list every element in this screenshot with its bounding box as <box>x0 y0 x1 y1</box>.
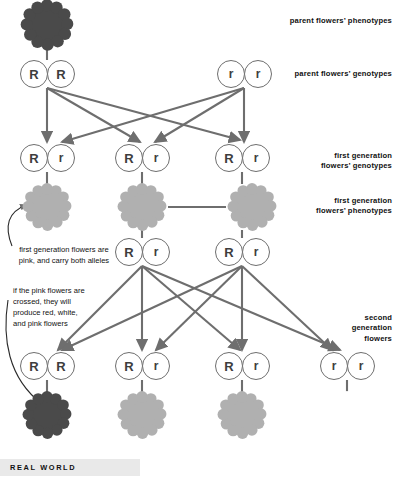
firstgen-genotype-1-left: R <box>20 144 48 172</box>
secondgen-genotype-Rr-1-right: r <box>142 352 170 380</box>
secondgen-flower-white <box>321 389 373 441</box>
note-first-generation-line1: first generation flowers are <box>2 244 126 255</box>
secondgen-genotype-RR-left: R <box>20 352 48 380</box>
firstgen-flower-pink-1 <box>21 181 73 233</box>
label-parent-phenotypes: parent flowers’ phenotypes <box>238 16 392 26</box>
secondgen-genotype-Rr-2-right: r <box>242 352 270 380</box>
secondgen-flower-red <box>21 389 73 441</box>
secondgen-genotype-rr-right: r <box>347 352 375 380</box>
secondgen-genotype-Rr-1-left: R <box>115 352 143 380</box>
parent-flower-red <box>19 0 75 53</box>
label-parent-genotypes-text: parent flowers’ genotypes <box>295 69 392 78</box>
crossed-genotype-1-right: r <box>142 238 170 266</box>
crossed-genotype-2-left: R <box>215 238 243 266</box>
firstgen-genotype-2-left: R <box>115 144 143 172</box>
label-firstgen-phenotypes-line1: first generation <box>238 196 392 206</box>
note-pink-crossed-line4: and pink flowers <box>13 318 133 329</box>
label-firstgen-phenotypes-line2: flowers’ phenotypes <box>238 206 392 216</box>
crossed-genotype-1-left: R <box>115 238 143 266</box>
secondgen-flower-pink-1 <box>116 389 168 441</box>
parent-genotype-RR-right: R <box>47 60 75 88</box>
label-secondgen-flowers: second generation flowers <box>285 313 392 344</box>
secondgen-genotype-Rr-2-left: R <box>215 352 243 380</box>
note-first-generation: first generation flowers are pink, and c… <box>2 244 126 266</box>
note-first-generation-line2: pink, and carry both alleles <box>2 255 126 266</box>
firstgen-genotype-2-right: r <box>142 144 170 172</box>
parent-genotype-rr-left: r <box>217 60 245 88</box>
secondgen-genotype-rr-left: r <box>320 352 348 380</box>
secondgen-genotype-RR-right: R <box>47 352 75 380</box>
firstgen-genotype-3-left: R <box>215 144 243 172</box>
note-pink-crossed-line3: produce red, white, <box>13 307 133 318</box>
label-firstgen-phenotypes: first generation flowers’ phenotypes <box>238 196 392 217</box>
label-secondgen-flowers-line1: second <box>285 313 392 323</box>
label-secondgen-flowers-line3: flowers <box>285 334 392 344</box>
note-pink-crossed-line2: crossed, they will <box>13 296 133 307</box>
firstgen-flower-pink-2 <box>116 181 168 233</box>
real-world-label: REAL WORLD <box>10 463 76 472</box>
secondgen-flower-pink-2 <box>216 389 268 441</box>
parent-genotype-RR-left: R <box>20 60 48 88</box>
label-parent-phenotypes-text: parent flowers’ phenotypes <box>290 16 392 25</box>
diagram-canvas: R R r r R r R r R r R r R r R R R r R r … <box>0 0 399 478</box>
firstgen-genotype-3-right: r <box>242 144 270 172</box>
note-pink-crossed-line1: if the pink flowers are <box>13 285 133 296</box>
firstgen-genotype-1-right: r <box>47 144 75 172</box>
crossed-genotype-2-right: r <box>242 238 270 266</box>
note-pink-crossed: if the pink flowers are crossed, they wi… <box>13 285 133 329</box>
label-secondgen-flowers-line2: generation <box>285 323 392 333</box>
parent-genotype-rr-right: r <box>244 60 272 88</box>
